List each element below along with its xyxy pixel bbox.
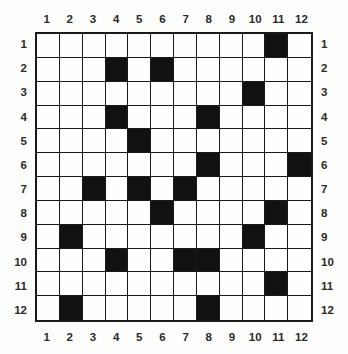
grid-cell-r11-c2[interactable]	[60, 272, 83, 296]
grid-cell-r11-c4[interactable]	[106, 272, 129, 296]
grid-cell-r9-c5[interactable]	[128, 225, 151, 249]
grid-cell-r2-c2[interactable]	[60, 58, 83, 82]
grid-cell-r6-c11[interactable]	[265, 153, 288, 177]
grid-cell-r1-c8[interactable]	[197, 34, 220, 58]
grid-cell-r10-c3[interactable]	[83, 249, 106, 273]
grid-cell-r12-c6[interactable]	[151, 296, 174, 320]
grid-cell-r8-c2[interactable]	[60, 201, 83, 225]
grid-cell-r8-c7[interactable]	[174, 201, 197, 225]
grid-cell-r10-c7[interactable]	[174, 249, 197, 273]
grid-cell-r10-c10[interactable]	[243, 249, 266, 273]
grid-cell-r3-c11[interactable]	[265, 82, 288, 106]
grid-cell-r3-c6[interactable]	[151, 82, 174, 106]
grid-cell-r12-c10[interactable]	[243, 296, 266, 320]
grid-cell-r1-c4[interactable]	[106, 34, 129, 58]
grid-cell-r11-c5[interactable]	[128, 272, 151, 296]
grid-cell-r3-c2[interactable]	[60, 82, 83, 106]
grid-cell-r9-c3[interactable]	[83, 225, 106, 249]
grid-cell-r3-c1[interactable]	[37, 82, 60, 106]
grid-cell-r3-c10[interactable]	[243, 82, 266, 106]
grid-cell-r7-c9[interactable]	[220, 177, 243, 201]
grid-cell-r1-c1[interactable]	[37, 34, 60, 58]
grid-cell-r4-c9[interactable]	[220, 106, 243, 130]
grid-cell-r1-c9[interactable]	[220, 34, 243, 58]
grid-cell-r6-c6[interactable]	[151, 153, 174, 177]
grid-cell-r2-c3[interactable]	[83, 58, 106, 82]
grid-cell-r8-c6[interactable]	[151, 201, 174, 225]
grid-cell-r1-c2[interactable]	[60, 34, 83, 58]
grid-cell-r1-c11[interactable]	[265, 34, 288, 58]
grid-cell-r7-c7[interactable]	[174, 177, 197, 201]
grid-cell-r6-c8[interactable]	[197, 153, 220, 177]
grid-cell-r4-c7[interactable]	[174, 106, 197, 130]
grid-cell-r12-c11[interactable]	[265, 296, 288, 320]
grid-cell-r10-c2[interactable]	[60, 249, 83, 273]
grid-cell-r10-c4[interactable]	[106, 249, 129, 273]
grid-cell-r5-c1[interactable]	[37, 129, 60, 153]
grid-cell-r3-c4[interactable]	[106, 82, 129, 106]
grid-cell-r1-c12[interactable]	[288, 34, 311, 58]
grid-cell-r5-c3[interactable]	[83, 129, 106, 153]
grid-cell-r11-c7[interactable]	[174, 272, 197, 296]
grid-cell-r2-c11[interactable]	[265, 58, 288, 82]
grid-cell-r9-c1[interactable]	[37, 225, 60, 249]
grid-cell-r6-c2[interactable]	[60, 153, 83, 177]
grid-cell-r12-c5[interactable]	[128, 296, 151, 320]
grid-cell-r8-c3[interactable]	[83, 201, 106, 225]
grid-cell-r3-c7[interactable]	[174, 82, 197, 106]
grid-cell-r2-c5[interactable]	[128, 58, 151, 82]
grid-cell-r10-c11[interactable]	[265, 249, 288, 273]
grid-cell-r7-c12[interactable]	[288, 177, 311, 201]
grid-cell-r7-c3[interactable]	[83, 177, 106, 201]
grid-cell-r2-c7[interactable]	[174, 58, 197, 82]
grid-cell-r4-c1[interactable]	[37, 106, 60, 130]
grid-cell-r3-c8[interactable]	[197, 82, 220, 106]
grid-cell-r5-c8[interactable]	[197, 129, 220, 153]
grid-cell-r8-c4[interactable]	[106, 201, 129, 225]
grid-cell-r9-c4[interactable]	[106, 225, 129, 249]
grid-cell-r8-c12[interactable]	[288, 201, 311, 225]
grid-cell-r11-c12[interactable]	[288, 272, 311, 296]
grid-cell-r7-c6[interactable]	[151, 177, 174, 201]
grid-cell-r10-c1[interactable]	[37, 249, 60, 273]
grid-cell-r6-c7[interactable]	[174, 153, 197, 177]
grid-cell-r8-c9[interactable]	[220, 201, 243, 225]
grid-cell-r12-c7[interactable]	[174, 296, 197, 320]
grid-cell-r11-c9[interactable]	[220, 272, 243, 296]
grid-cell-r10-c8[interactable]	[197, 249, 220, 273]
grid-cell-r9-c11[interactable]	[265, 225, 288, 249]
grid-cell-r10-c6[interactable]	[151, 249, 174, 273]
grid-cell-r4-c12[interactable]	[288, 106, 311, 130]
grid-cell-r11-c8[interactable]	[197, 272, 220, 296]
grid-cell-r7-c2[interactable]	[60, 177, 83, 201]
grid-cell-r6-c10[interactable]	[243, 153, 266, 177]
grid-cell-r3-c12[interactable]	[288, 82, 311, 106]
grid-cell-r10-c12[interactable]	[288, 249, 311, 273]
grid-cell-r5-c11[interactable]	[265, 129, 288, 153]
grid-cell-r9-c2[interactable]	[60, 225, 83, 249]
grid-cell-r9-c8[interactable]	[197, 225, 220, 249]
grid-cell-r6-c5[interactable]	[128, 153, 151, 177]
grid-cell-r7-c11[interactable]	[265, 177, 288, 201]
grid-cell-r5-c7[interactable]	[174, 129, 197, 153]
grid-cell-r11-c6[interactable]	[151, 272, 174, 296]
grid-cell-r2-c6[interactable]	[151, 58, 174, 82]
grid-cell-r12-c2[interactable]	[60, 296, 83, 320]
grid-cell-r6-c9[interactable]	[220, 153, 243, 177]
grid-cell-r2-c10[interactable]	[243, 58, 266, 82]
grid-cell-r4-c6[interactable]	[151, 106, 174, 130]
grid-cell-r5-c10[interactable]	[243, 129, 266, 153]
grid-cell-r4-c2[interactable]	[60, 106, 83, 130]
grid-cell-r8-c8[interactable]	[197, 201, 220, 225]
grid-cell-r7-c8[interactable]	[197, 177, 220, 201]
grid-cell-r5-c12[interactable]	[288, 129, 311, 153]
grid-cell-r11-c3[interactable]	[83, 272, 106, 296]
grid-cell-r9-c12[interactable]	[288, 225, 311, 249]
grid-cell-r7-c1[interactable]	[37, 177, 60, 201]
grid-cell-r3-c9[interactable]	[220, 82, 243, 106]
grid-cell-r2-c8[interactable]	[197, 58, 220, 82]
grid-cell-r4-c3[interactable]	[83, 106, 106, 130]
grid-cell-r12-c1[interactable]	[37, 296, 60, 320]
grid-cell-r6-c3[interactable]	[83, 153, 106, 177]
grid-cell-r7-c10[interactable]	[243, 177, 266, 201]
